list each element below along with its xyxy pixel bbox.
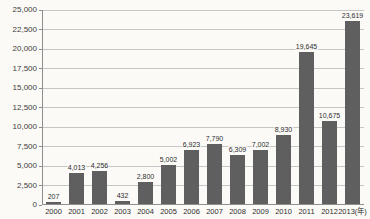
x-axis-label: 2001 bbox=[68, 207, 85, 216]
bar-2012 bbox=[322, 121, 337, 204]
gridline bbox=[43, 88, 364, 89]
bar-2005 bbox=[161, 165, 176, 204]
gridline bbox=[43, 10, 364, 11]
bar-2007 bbox=[207, 144, 222, 204]
gridline bbox=[43, 107, 364, 108]
gridline bbox=[43, 68, 364, 69]
x-axis-label: 2011 bbox=[298, 207, 314, 216]
bar-2013 bbox=[345, 21, 360, 204]
y-axis-tick bbox=[39, 49, 42, 50]
x-axis-label: 2005 bbox=[160, 207, 177, 216]
bar-2010 bbox=[276, 135, 291, 204]
gridline bbox=[43, 127, 364, 128]
bar-value-label: 207 bbox=[47, 193, 61, 201]
y-axis-tick bbox=[39, 127, 42, 128]
bar-2000 bbox=[46, 202, 61, 204]
y-axis-tick bbox=[39, 29, 42, 30]
bar-value-label: 432 bbox=[116, 192, 130, 200]
y-axis-tick-label: 7,500 bbox=[0, 143, 37, 151]
bar-value-label: 8,930 bbox=[274, 126, 294, 134]
x-axis-label: 2000 bbox=[45, 207, 62, 216]
plot-area: 2074,0134,2564322,8005,0026,9237,7906,30… bbox=[42, 10, 364, 205]
bar-2011 bbox=[299, 52, 314, 204]
bar-2008 bbox=[230, 155, 245, 204]
y-axis-tick bbox=[39, 107, 42, 108]
bar-2009 bbox=[253, 150, 268, 204]
x-axis-label: 2010 bbox=[275, 207, 292, 216]
bar-value-label: 6,309 bbox=[228, 146, 248, 154]
bar-2002 bbox=[92, 171, 107, 204]
x-axis-label: 2006 bbox=[183, 207, 200, 216]
y-axis-tick bbox=[39, 68, 42, 69]
x-axis-label: 2004 bbox=[137, 207, 154, 216]
y-axis-tick-label: 20,000 bbox=[0, 45, 37, 53]
bar-value-label: 5,002 bbox=[159, 156, 179, 164]
y-axis-tick-label: 0 bbox=[0, 201, 37, 209]
gridline bbox=[43, 146, 364, 147]
x-axis-line bbox=[42, 204, 364, 205]
bar-value-label: 2,800 bbox=[136, 173, 156, 181]
y-axis-tick bbox=[39, 185, 42, 186]
y-axis-tick bbox=[39, 10, 42, 11]
y-axis-tick bbox=[39, 205, 42, 206]
y-axis-tick bbox=[39, 166, 42, 167]
y-axis-tick bbox=[39, 88, 42, 89]
x-axis-label: 2012 bbox=[321, 207, 338, 216]
y-axis-tick-label: 22,500 bbox=[0, 26, 37, 34]
bar-2004 bbox=[138, 182, 153, 204]
bar-value-label: 19,645 bbox=[295, 43, 318, 51]
bar-2003 bbox=[115, 201, 130, 204]
gridline bbox=[43, 29, 364, 30]
bar-chart-figure: 2074,0134,2564322,8005,0026,9237,7906,30… bbox=[0, 0, 370, 219]
x-axis-label: 2008 bbox=[229, 207, 246, 216]
y-axis-tick-label: 5,000 bbox=[0, 162, 37, 170]
bar-value-label: 10,675 bbox=[318, 112, 341, 120]
x-axis-label: 2009 bbox=[252, 207, 269, 216]
bar-value-label: 6,923 bbox=[182, 141, 202, 149]
bar-2006 bbox=[184, 150, 199, 204]
x-axis-label: 2003 bbox=[114, 207, 131, 216]
y-axis-tick-label: 17,500 bbox=[0, 65, 37, 73]
y-axis-tick-label: 12,500 bbox=[0, 104, 37, 112]
y-axis-tick-label: 15,000 bbox=[0, 84, 37, 92]
x-axis-label: 2007 bbox=[206, 207, 223, 216]
y-axis-tick-label: 10,000 bbox=[0, 123, 37, 131]
bar-value-label: 4,256 bbox=[90, 162, 110, 170]
bar-value-label: 7,002 bbox=[251, 141, 271, 149]
bar-2001 bbox=[69, 173, 84, 204]
bar-value-label: 7,790 bbox=[205, 135, 225, 143]
x-axis-label: 2013(年) bbox=[338, 207, 367, 216]
y-axis-tick bbox=[39, 146, 42, 147]
bar-value-label: 23,619 bbox=[341, 12, 364, 20]
y-axis-tick-label: 2,500 bbox=[0, 182, 37, 190]
x-axis-label: 2002 bbox=[91, 207, 108, 216]
y-axis-tick-label: 25,000 bbox=[0, 6, 37, 14]
bar-value-label: 4,013 bbox=[67, 164, 87, 172]
